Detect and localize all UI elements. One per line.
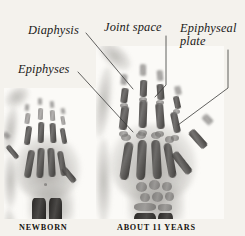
radius-epiphysis	[134, 203, 156, 211]
newborn-xray-panel	[4, 88, 96, 219]
annotation-label-epiphyseal-plate: Epiphyseal plate	[180, 22, 245, 47]
proximal-phalanx-diaphysis	[155, 103, 165, 129]
distal-phalanx-bone	[157, 70, 164, 81]
middle-phalanx-diaphysis	[140, 80, 148, 97]
ulna-bone	[49, 198, 62, 219]
radius-bone	[32, 198, 46, 219]
eleven-year-xray-panel	[96, 46, 224, 219]
distal-phalanx-bone	[50, 101, 54, 108]
middle-phalanx-epiphysis	[120, 103, 128, 108]
distal-phalanx-bone	[61, 108, 66, 115]
proximal-phalanx-epiphysis	[155, 131, 164, 137]
carpal-bone	[136, 182, 147, 192]
distal-phalanx-bone	[140, 64, 146, 76]
carpal-bone	[165, 192, 174, 201]
ulna-diaphysis	[158, 213, 173, 219]
carpal-bone	[140, 193, 150, 202]
carpal-ossification-center	[44, 183, 47, 186]
carpal-bone	[162, 182, 172, 191]
proximal-phalanx-bone	[49, 123, 56, 143]
metacarpal-bone	[47, 148, 56, 177]
caption-about-11-years: ABOUT 11 YEARS	[117, 223, 196, 232]
middle-phalanx-epiphysis	[156, 100, 164, 105]
xray-comparison-figure: Diaphysis Epiphyses Joint space Epiphyse…	[0, 0, 245, 236]
carpal-bone	[149, 180, 160, 190]
soft-tissue-finger-middle	[96, 138, 111, 219]
annotation-label-epiphyseal-plate-line2: plate	[180, 34, 206, 48]
proximal-phalanx-bone	[38, 122, 45, 143]
annotation-label-joint-space: Joint space	[104, 21, 162, 34]
middle-phalanx-epiphysis	[173, 109, 180, 114]
middle-phalanx-bone	[38, 108, 43, 120]
middle-phalanx-bone	[50, 110, 56, 121]
proximal-phalanx-epiphysis	[119, 131, 128, 137]
middle-phalanx-diaphysis	[156, 84, 164, 100]
carpal-bone	[152, 192, 163, 202]
soft-tissue-finger-middle	[4, 154, 17, 208]
radius-diaphysis	[134, 213, 156, 219]
proximal-phalanx-epiphysis	[138, 130, 147, 136]
annotation-label-epiphyses: Epiphyses	[18, 63, 70, 76]
caption-newborn: NEWBORN	[19, 223, 67, 232]
ulna-epiphysis	[158, 204, 172, 211]
proximal-phalanx-epiphysis	[171, 135, 179, 141]
middle-phalanx-epiphysis	[139, 97, 147, 102]
distal-phalanx-bone	[38, 98, 42, 105]
proximal-phalanx-diaphysis	[139, 100, 148, 128]
annotation-label-diaphysis: Diaphysis	[28, 24, 79, 37]
